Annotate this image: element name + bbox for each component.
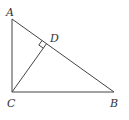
label-b: B [109, 97, 118, 110]
right-angle-marker-d [39, 41, 44, 49]
label-a: A [5, 6, 14, 19]
label-d: D [49, 32, 59, 45]
segment-cd [12, 44, 47, 92]
triangle-diagram: A D C B [0, 0, 129, 120]
segment-ab [12, 19, 114, 92]
label-c: C [7, 97, 16, 110]
